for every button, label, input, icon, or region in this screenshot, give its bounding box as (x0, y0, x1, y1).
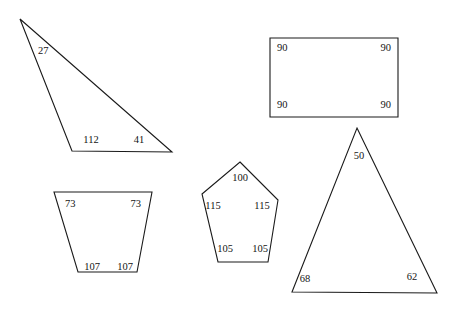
trapezoid-angle-label: 73 (65, 198, 76, 209)
scalene-triangle-angle-label: 112 (83, 134, 98, 145)
pentagon-angle-label: 115 (205, 200, 220, 211)
acute-triangle-angle-label: 62 (407, 271, 418, 282)
trapezoid-angle-label: 73 (131, 198, 142, 209)
pentagon-angle-label: 105 (217, 243, 233, 254)
rectangle-angle-label: 90 (277, 99, 288, 110)
rectangle-angle-label: 90 (277, 42, 288, 53)
rectangle-angle-label: 90 (381, 99, 392, 110)
acute-triangle-angle-label: 50 (354, 150, 365, 161)
pentagon-angle-label: 105 (252, 243, 268, 254)
pentagon-angle-label: 100 (232, 172, 248, 183)
trapezoid-angle-label: 107 (84, 261, 100, 272)
scalene-triangle-angle-label: 41 (134, 134, 145, 145)
scalene-triangle-angle-label: 27 (38, 45, 49, 56)
pentagon-angle-label: 115 (254, 200, 269, 211)
trapezoid-angle-label: 107 (117, 261, 133, 272)
canvas-background (0, 0, 461, 309)
acute-triangle-angle-label: 68 (300, 273, 311, 284)
rectangle-angle-label: 90 (381, 42, 392, 53)
geometry-figure-canvas: 2711241909090907373107107100115115105105… (0, 0, 461, 309)
